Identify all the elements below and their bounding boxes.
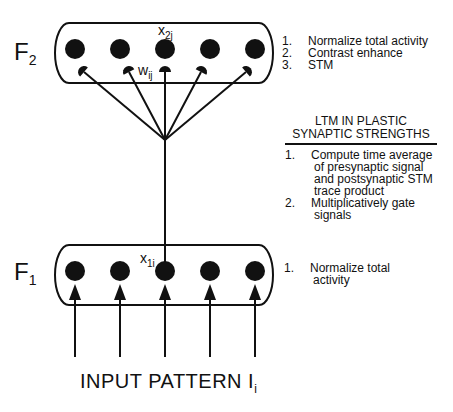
note-text: Normalize total activity <box>310 262 390 286</box>
f2-node <box>65 39 85 59</box>
f2-node <box>245 39 265 59</box>
x2j-sub: 2j <box>165 30 173 41</box>
ltm-item: 1. Compute time average of presynaptic s… <box>285 149 433 197</box>
f1-label-text: F <box>14 258 29 285</box>
note-line: activity <box>310 274 390 286</box>
input-arrows <box>75 292 255 357</box>
f1-node <box>110 261 130 281</box>
f1-label-sub: 1 <box>29 272 37 288</box>
ltm-item-text: Compute time average of presynaptic sign… <box>311 149 433 197</box>
input-label-text: INPUT PATTERN I <box>80 370 254 392</box>
x1i-text: x <box>140 250 147 266</box>
weight-variable: wij <box>138 62 153 81</box>
ltm-items: 1. Compute time average of presynaptic s… <box>285 149 433 221</box>
ltm-title: LTM IN PLASTIC SYNAPTIC STRENGTHS <box>286 115 436 141</box>
x2j-text: x <box>158 22 165 38</box>
f2-label-text: F <box>14 38 29 65</box>
ltm-item-text: Multiplicatively gate signals <box>311 197 415 221</box>
input-pattern-label: INPUT PATTERN Ii <box>80 370 257 396</box>
f1-nodes <box>65 261 265 281</box>
f1-layer-label: F1 <box>14 258 36 288</box>
f2-node <box>200 39 220 59</box>
wij-text: w <box>138 62 148 78</box>
f2-layer-label: F2 <box>14 38 36 68</box>
note-text: STM <box>308 59 333 71</box>
f2-node <box>155 39 175 59</box>
f1-node <box>155 261 175 281</box>
f2-node <box>110 39 130 59</box>
synapse-knob <box>196 64 209 75</box>
f1-node <box>200 261 220 281</box>
f2-note: 2.Contrast enhance <box>282 47 428 59</box>
x1i-sub: 1i <box>147 258 155 269</box>
ltm-title-line2: SYNAPTIC STRENGTHS <box>286 128 436 141</box>
f2-note: 3.STM <box>282 59 428 71</box>
f1-node-variable: x1i <box>140 250 155 269</box>
ltm-item-num: 2. <box>285 197 311 221</box>
f1-node <box>65 261 85 281</box>
f2-label-sub: 2 <box>29 52 37 68</box>
f1-notes: 1. Normalize total activity <box>284 262 390 286</box>
f2-nodes <box>65 39 265 59</box>
wij-sub: ij <box>148 70 152 81</box>
synapse-knob <box>121 64 134 75</box>
ltm-line: signals <box>311 209 415 221</box>
input-label-sub: i <box>254 382 257 396</box>
synapse-knob <box>159 66 171 72</box>
ltm-divider <box>285 143 437 145</box>
ltm-item: 2. Multiplicatively gate signals <box>285 197 433 221</box>
note-num: 3. <box>282 59 308 71</box>
f2-notes: 1.Normalize total activity 2.Contrast en… <box>282 35 428 71</box>
f1-note: 1. Normalize total activity <box>284 262 390 286</box>
f2-node-variable: x2j <box>158 22 173 41</box>
f1-node <box>245 261 265 281</box>
ltm-item-num: 1. <box>285 149 311 197</box>
note-num: 1. <box>284 262 310 286</box>
